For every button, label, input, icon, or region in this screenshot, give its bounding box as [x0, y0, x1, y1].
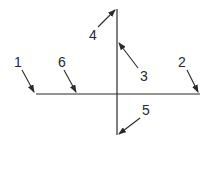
- callout-label-3: 3: [140, 69, 148, 83]
- callout-arrow-1: [22, 70, 34, 92]
- callout-arrow-3: [119, 43, 138, 68]
- callout-label-5: 5: [142, 103, 150, 117]
- callout-label-1: 1: [14, 55, 22, 69]
- callout-label-2: 2: [178, 55, 186, 69]
- callout-arrow-6: [64, 70, 76, 92]
- callout-diagram: [0, 0, 210, 173]
- callout-label-4: 4: [89, 28, 97, 42]
- callout-arrow-5: [119, 118, 140, 134]
- callout-arrows: [22, 10, 198, 134]
- callout-label-6: 6: [58, 55, 66, 69]
- callout-arrow-2: [187, 70, 198, 92]
- callout-arrow-4: [98, 10, 115, 27]
